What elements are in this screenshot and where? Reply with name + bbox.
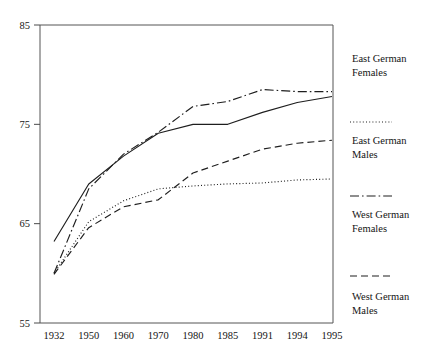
legend-entry: West GermanFemales — [350, 196, 410, 234]
y-tick-label: 85 — [20, 20, 31, 31]
plot-frame — [40, 25, 333, 323]
legend-entry: West GermanMales — [350, 276, 410, 316]
x-tick-label: 1991 — [252, 330, 273, 341]
legend-label-line2: Males — [352, 149, 378, 160]
legend-label-line2: Females — [352, 223, 387, 234]
legend-entry: East GermanFemales — [352, 53, 407, 78]
x-tick-label: 1932 — [44, 330, 65, 341]
series-line-east-german-males — [54, 179, 332, 273]
x-tick-label: 1994 — [287, 330, 309, 341]
legend-label-line1: West German — [352, 291, 410, 302]
series-line-west-german-females — [54, 90, 332, 274]
chart-svg: 55657585 1932195019601970198019851991199… — [0, 0, 435, 361]
x-tick-label: 1960 — [113, 330, 134, 341]
y-axis-ticks: 55657585 — [20, 20, 41, 329]
x-tick-label: 1970 — [148, 330, 169, 341]
chart-legend: East GermanFemalesEast GermanMalesWest G… — [350, 53, 410, 316]
legend-label-line1: East German — [352, 135, 407, 146]
y-tick-label: 55 — [20, 318, 31, 329]
x-tick-label: 1950 — [78, 330, 99, 341]
x-tick-label: 1980 — [183, 330, 204, 341]
y-tick-label: 75 — [20, 119, 31, 130]
life-expectancy-chart: 55657585 1932195019601970198019851991199… — [0, 0, 435, 361]
legend-label-line1: West German — [352, 209, 410, 220]
x-tick-label: 1985 — [217, 330, 238, 341]
x-tick-label: 1995 — [322, 330, 343, 341]
series-line-east-german-females — [54, 97, 332, 242]
legend-label-line1: East German — [352, 53, 407, 64]
x-axis-ticks: 193219501960197019801985199119941995 — [44, 330, 343, 341]
y-tick-label: 65 — [20, 218, 31, 229]
series-line-west-german-males — [54, 140, 332, 274]
legend-label-line2: Females — [352, 67, 387, 78]
legend-entry: East GermanMales — [350, 122, 407, 160]
plot-box — [40, 25, 333, 323]
legend-label-line2: Males — [352, 305, 378, 316]
data-series-group — [54, 90, 332, 275]
